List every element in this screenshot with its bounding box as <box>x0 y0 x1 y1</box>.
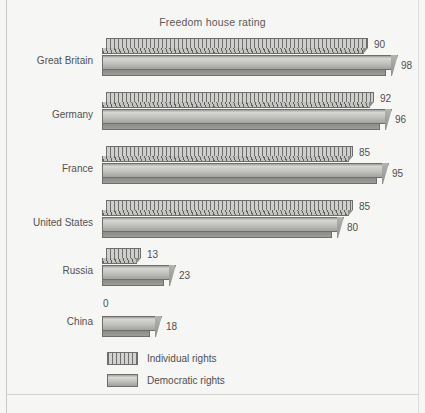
value-label-democratic-rights-germany: 96 <box>395 114 406 125</box>
bar-end-cap <box>155 316 162 337</box>
value-label-individual-rights-france: 85 <box>359 147 370 158</box>
legend-swatch-democratic-rights-icon <box>107 374 138 387</box>
bar-democratic-rights-united-states[interactable] <box>102 217 338 238</box>
bar-body <box>102 217 338 232</box>
bar-front-face <box>102 102 370 108</box>
page-border-right <box>418 0 419 413</box>
bar-front-face <box>102 156 349 162</box>
value-label-individual-rights-united-states: 85 <box>359 201 370 212</box>
bar-top-face <box>106 38 368 48</box>
bar-base <box>102 178 377 184</box>
bar-front-face <box>102 258 137 264</box>
bar-body <box>102 163 383 178</box>
value-label-individual-rights-great-britain: 90 <box>374 39 385 50</box>
bar-group-germany: Germany 92 96 <box>7 92 418 140</box>
chart-title: Freedom house rating <box>7 16 418 28</box>
value-label-individual-rights-russia: 13 <box>147 249 158 260</box>
value-label-democratic-rights-great-britain: 98 <box>401 60 412 71</box>
bar-top-face <box>106 146 353 156</box>
freedom-house-rating-chart: Freedom house rating Great Britain 90 98… <box>7 0 418 394</box>
bar-democratic-rights-france[interactable] <box>102 163 383 184</box>
bar-individual-rights-france[interactable] <box>102 146 353 162</box>
bar-base <box>102 331 150 337</box>
bar-top-face <box>106 248 141 258</box>
bar-individual-rights-united-states[interactable] <box>102 200 353 216</box>
bar-democratic-rights-great-britain[interactable] <box>102 55 392 76</box>
bar-group-china: China 0 18 <box>7 296 418 344</box>
bar-body <box>102 109 386 124</box>
page-border-bottom <box>6 394 419 395</box>
bar-end-chamfer <box>363 48 368 54</box>
bar-end-cap <box>391 55 398 76</box>
value-label-individual-rights-china: 0 <box>103 298 109 309</box>
bar-group-france: France 85 95 <box>7 146 418 194</box>
bar-end-cap <box>382 163 389 184</box>
bar-base <box>102 232 332 238</box>
category-label-france: France <box>7 163 93 174</box>
chart-legend: Individual rights Democratic rights <box>7 352 418 394</box>
category-label-china: China <box>7 316 93 327</box>
bar-end-cap <box>169 265 176 286</box>
bar-base <box>102 280 164 286</box>
value-label-democratic-rights-france: 95 <box>392 168 403 179</box>
category-label-united-states: United States <box>7 217 93 228</box>
value-label-democratic-rights-russia: 23 <box>179 270 190 281</box>
bar-front-face <box>102 210 349 216</box>
legend-label-democratic-rights: Democratic rights <box>147 375 225 386</box>
bar-individual-rights-germany[interactable] <box>102 92 374 108</box>
bar-base <box>102 124 380 130</box>
bar-individual-rights-great-britain[interactable] <box>102 38 368 54</box>
value-label-democratic-rights-china: 18 <box>166 321 177 332</box>
bar-group-united-states: United States 85 80 <box>7 200 418 248</box>
bar-group-great-britain: Great Britain 90 98 <box>7 38 418 86</box>
value-label-individual-rights-germany: 92 <box>380 93 391 104</box>
bar-end-cap <box>337 217 344 238</box>
bar-front-face <box>102 48 364 54</box>
bar-body <box>102 55 392 70</box>
value-label-democratic-rights-united-states: 80 <box>347 222 358 233</box>
bar-end-chamfer <box>369 102 374 108</box>
bar-body <box>102 265 170 280</box>
bar-end-cap <box>385 109 392 130</box>
bar-base <box>102 70 386 76</box>
category-label-great-britain: Great Britain <box>7 55 93 66</box>
bar-group-russia: Russia 13 23 <box>7 248 418 296</box>
bar-democratic-rights-russia[interactable] <box>102 265 170 286</box>
bar-top-face <box>106 92 374 102</box>
bar-democratic-rights-china[interactable] <box>102 316 156 337</box>
legend-label-individual-rights: Individual rights <box>147 353 216 364</box>
legend-swatch-individual-rights-icon <box>107 352 138 365</box>
category-label-russia: Russia <box>7 265 93 276</box>
category-label-germany: Germany <box>7 109 93 120</box>
bar-individual-rights-russia[interactable] <box>102 248 141 264</box>
bar-democratic-rights-germany[interactable] <box>102 109 386 130</box>
bar-top-face <box>106 200 353 210</box>
bar-body <box>102 316 156 331</box>
